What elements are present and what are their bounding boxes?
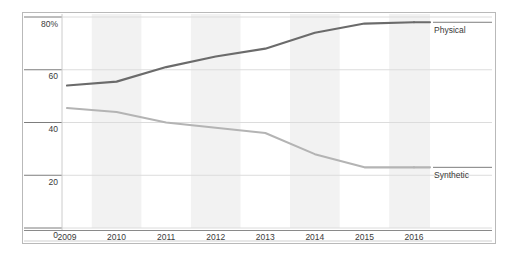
x-axis-tick-label: 2012 — [196, 232, 236, 242]
x-axis-tick-label: 2009 — [47, 232, 87, 242]
x-axis-tick-label: 2015 — [344, 232, 384, 242]
line-chart — [0, 0, 510, 256]
x-axis-tick-label: 2014 — [295, 232, 335, 242]
series-label-synthetic: Synthetic — [434, 170, 469, 180]
y-axis-tick-label: 60 — [24, 71, 58, 81]
x-axis-tick-label: 2016 — [394, 232, 434, 242]
y-axis-tick-label: 80% — [24, 19, 58, 29]
x-axis-tick-label: 2013 — [245, 232, 285, 242]
x-axis-tick-label: 2011 — [146, 232, 186, 242]
y-axis-tick-label: 20 — [24, 177, 58, 187]
series-label-physical: Physical — [434, 25, 466, 35]
y-axis-tick-label: 40 — [24, 124, 58, 134]
plot-bands — [92, 14, 430, 228]
chart-page: · · · · 80%6040200 200920102011201220132… — [0, 0, 510, 256]
legend-leaders — [433, 22, 492, 167]
x-axis-tick-label: 2010 — [97, 232, 137, 242]
